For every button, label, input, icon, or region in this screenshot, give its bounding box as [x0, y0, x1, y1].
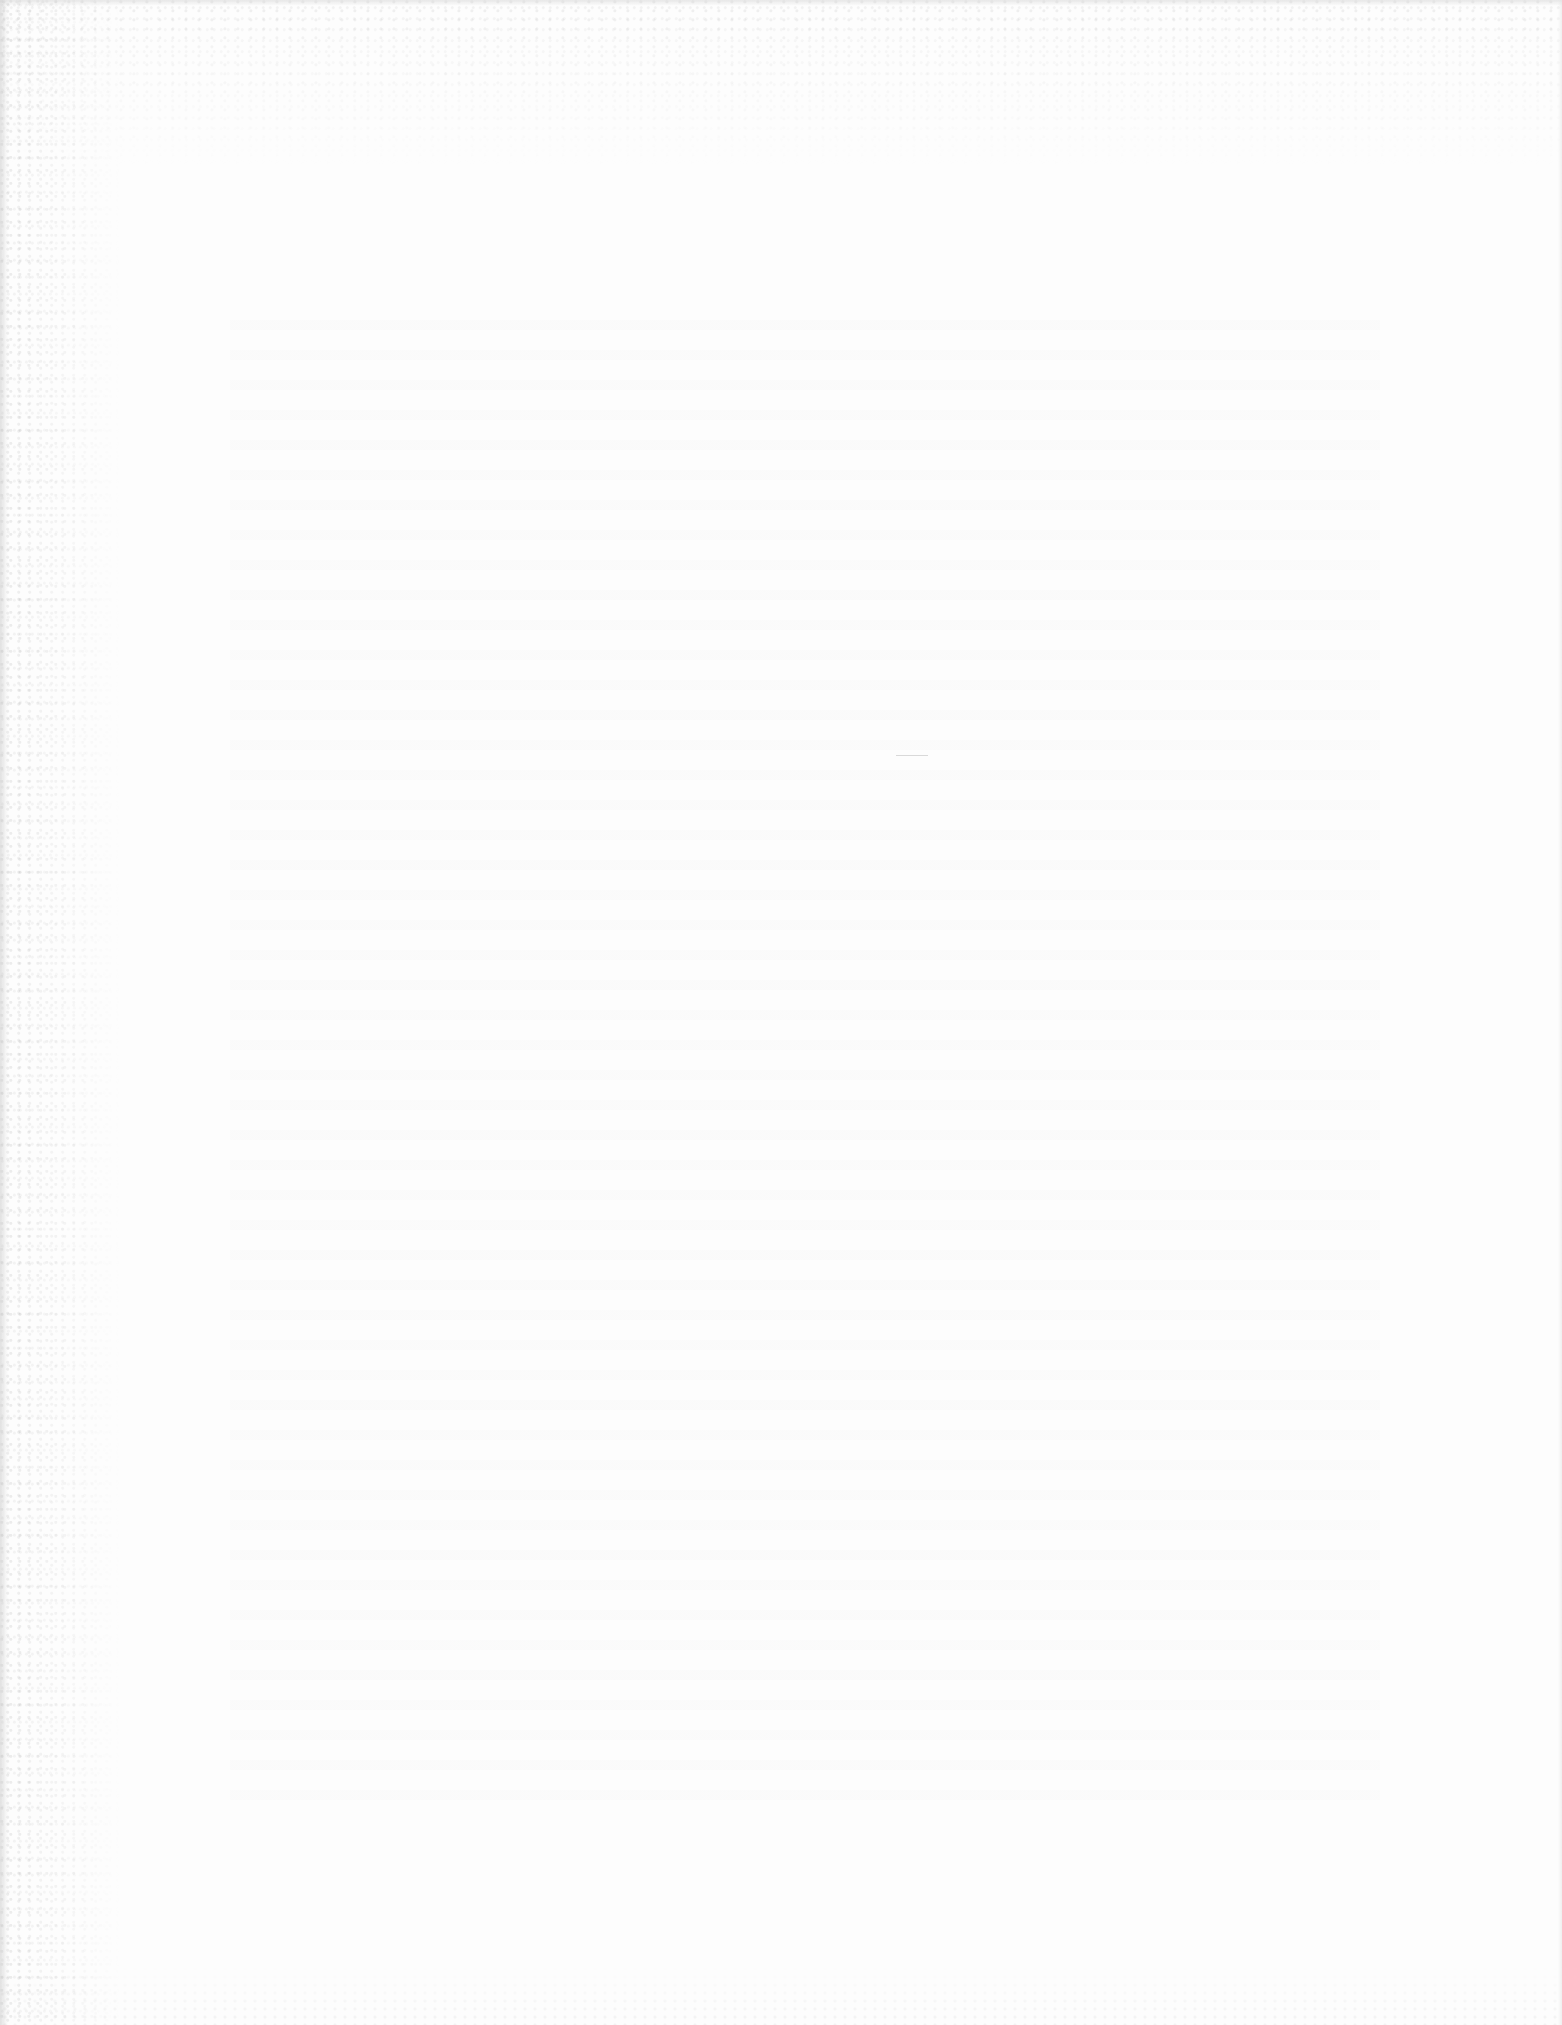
scan-noise-top-edge [0, 0, 1562, 170]
scan-noise-bottom-edge [0, 1965, 1562, 2025]
show-through-ghost-text [230, 300, 1380, 1800]
scan-shadow-right-edge [1558, 0, 1562, 2025]
scan-noise-left-edge [0, 0, 120, 2025]
stray-scan-mark [896, 755, 928, 756]
blank-document-page [0, 0, 1562, 2025]
